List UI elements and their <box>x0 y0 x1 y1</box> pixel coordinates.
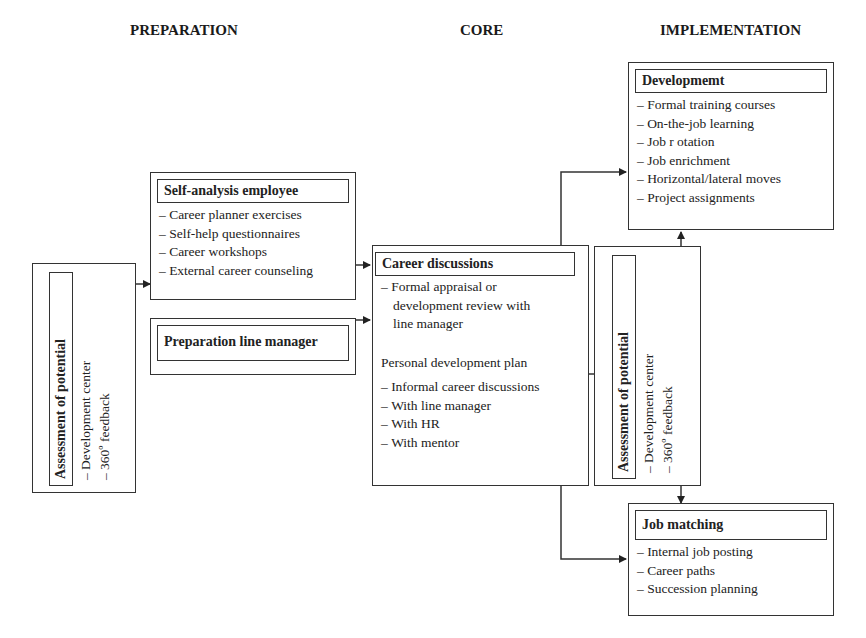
prep-line-manager-box: Preparation line manager <box>150 318 356 375</box>
development-item: Formal training courses <box>637 96 833 115</box>
assessment-left-box: Assessment of potential Development cent… <box>32 263 136 493</box>
job-matching-item: Career paths <box>637 562 833 581</box>
career-discussions-item: With line manager <box>381 397 588 416</box>
career-discussions-title: Career discussions <box>375 252 575 276</box>
self-analysis-item: Career planner exercises <box>159 206 355 225</box>
career-discussions-item: With mentor <box>381 434 588 453</box>
self-analysis-box: Self-analysis employee Career planner ex… <box>150 172 356 300</box>
assessment-left-title: Assessment of potential <box>49 272 73 486</box>
assessment-left-item: 360º feedback <box>96 272 115 480</box>
spacer <box>373 334 588 354</box>
career-discussions-box: Career discussions Formal appraisal or d… <box>372 245 589 486</box>
development-item: Job enrichment <box>637 152 833 171</box>
formal-appraisal-line2: development review with <box>373 297 588 316</box>
formal-appraisal-item: Formal appraisal or <box>381 278 588 297</box>
self-analysis-title: Self-analysis employee <box>157 179 349 203</box>
development-box: Developmemt Formal training courses On-t… <box>628 62 834 230</box>
assessment-right-box: Assessment of potential Development cent… <box>594 246 701 486</box>
personal-development-plan: Personal development plan <box>373 354 588 373</box>
job-matching-title: Job matching <box>635 510 827 540</box>
assessment-right-item: Development center <box>640 255 659 473</box>
job-matching-item: Internal job posting <box>637 543 833 562</box>
self-analysis-item: Self-help questionnaires <box>159 225 355 244</box>
development-item: Project assignments <box>637 189 833 208</box>
job-matching-item: Succession planning <box>637 580 833 599</box>
assessment-left-item: Development center <box>77 272 96 480</box>
prep-line-manager-title: Preparation line manager <box>157 325 349 361</box>
development-item: Horizontal/lateral moves <box>637 170 833 189</box>
job-matching-box: Job matching Internal job posting Career… <box>628 503 834 616</box>
assessment-right-item: 360º feedback <box>659 255 678 473</box>
self-analysis-item: External career counseling <box>159 262 355 281</box>
career-discussions-item: Informal career discussions <box>381 378 588 397</box>
development-item: On-the-job learning <box>637 115 833 134</box>
development-title: Developmemt <box>635 69 827 93</box>
development-item: Job r otation <box>637 133 833 152</box>
career-discussions-item: With HR <box>381 415 588 434</box>
self-analysis-item: Career workshops <box>159 243 355 262</box>
formal-appraisal-line3: line manager <box>373 315 588 334</box>
assessment-right-title: Assessment of potential <box>612 255 636 479</box>
